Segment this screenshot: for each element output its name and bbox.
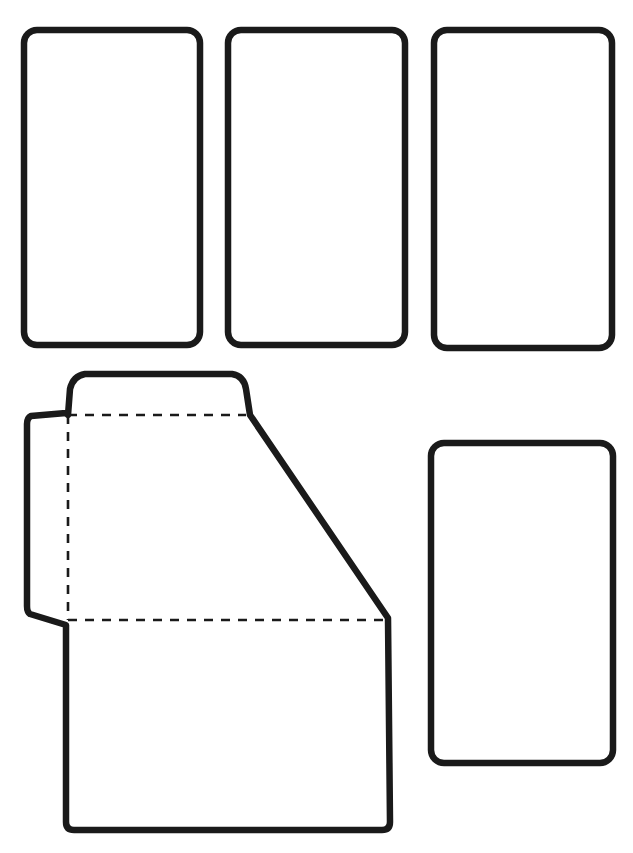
packaging-net-diagram: [0, 0, 633, 853]
panel-bottom-right[interactable]: [431, 443, 613, 763]
panel-top-right[interactable]: [434, 30, 612, 348]
panel-top-left[interactable]: [24, 30, 200, 345]
panel-top-middle[interactable]: [228, 30, 405, 345]
diagram-canvas: [0, 0, 633, 853]
